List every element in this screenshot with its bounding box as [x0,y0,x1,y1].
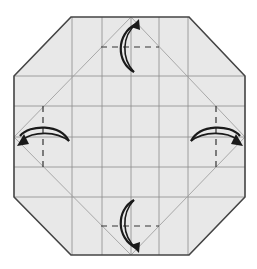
octagon-paper [14,17,245,255]
origami-diagram [0,0,257,269]
